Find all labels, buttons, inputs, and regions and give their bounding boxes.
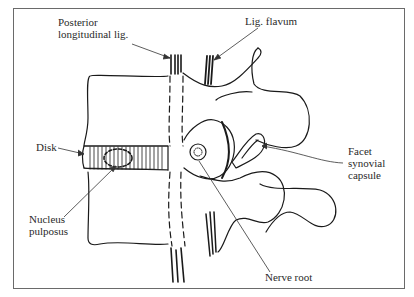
upper-vertebral-body: [84, 75, 168, 146]
label-lig-flavum: Lig. flavum: [245, 15, 297, 27]
facet-synovial-capsule: [232, 134, 265, 168]
label-nerve-root: Nerve root: [265, 271, 312, 283]
label-posterior-longitudinal-lig: Posterior longitudinal lig.: [58, 16, 128, 40]
label-disk: Disk: [36, 141, 57, 153]
leader-nucleus: [64, 166, 116, 217]
leader-lig-flavum: [214, 28, 258, 60]
leader-facet: [262, 146, 343, 163]
lower-vertebral-body: [84, 168, 168, 245]
nerve-root: [190, 144, 206, 160]
label-facet-synovial-capsule: Facet synovial capsule: [348, 145, 385, 181]
facet-joint-region: [184, 120, 234, 179]
label-nucleus-pulposus: Nucleus pulposus: [29, 213, 68, 237]
spine-diagram-figure: Posterior longitudinal lig. Lig. flavum …: [0, 0, 414, 297]
